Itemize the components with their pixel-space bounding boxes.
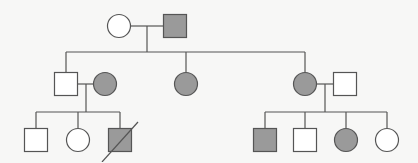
- individual-I-1-circle-icon: [108, 15, 131, 38]
- individual-II-5-square-icon: [334, 73, 357, 96]
- individuals: [25, 15, 399, 163]
- individual-II-4-circle-icon: [294, 73, 317, 96]
- individual-II-3-circle-icon: [175, 73, 198, 96]
- individual-III-4-square-icon: [254, 129, 277, 152]
- individual-III-5-square-icon: [294, 129, 317, 152]
- individual-III-1-square-icon: [25, 129, 48, 152]
- individual-III-2-circle-icon: [67, 129, 90, 152]
- pedigree-chart: [0, 0, 418, 162]
- individual-II-1-square-icon: [55, 73, 78, 96]
- individual-III-6-circle-icon: [335, 129, 358, 152]
- individual-III-7-circle-icon: [376, 129, 399, 152]
- individual-I-2-square-icon: [164, 15, 187, 38]
- individual-III-3-square-icon: [102, 122, 138, 162]
- individual-II-2-circle-icon: [94, 73, 117, 96]
